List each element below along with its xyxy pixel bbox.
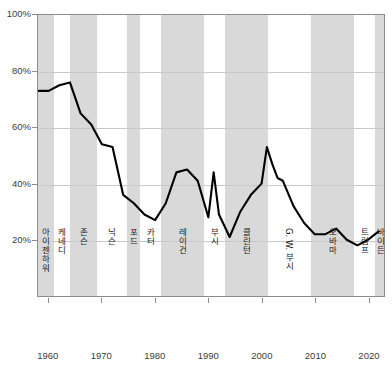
president-label: 부시 <box>209 228 218 246</box>
y-tick-label: 60% <box>0 121 31 132</box>
x-tick-label: 2010 <box>305 350 326 361</box>
y-tick-label: 20% <box>0 234 31 245</box>
x-tick-mark <box>155 298 156 303</box>
president-label: 존슨 <box>78 228 87 246</box>
president-label: G. W. 부시 <box>284 228 293 271</box>
y-tick-mark <box>32 71 37 72</box>
y-tick-label: 80% <box>0 65 31 76</box>
president-label: 케네디 <box>56 228 65 255</box>
y-tick-mark <box>32 127 37 128</box>
x-tick-mark <box>369 298 370 303</box>
president-label: 오바마 <box>327 228 336 255</box>
x-tick-label: 2000 <box>251 350 272 361</box>
president-label: 트럼프 <box>359 228 368 255</box>
y-tick-mark <box>32 184 37 185</box>
y-tick-label: 40% <box>0 178 31 189</box>
president-label: 닉슨 <box>107 228 116 246</box>
y-tick-mark <box>32 240 37 241</box>
x-tick-label: 2020 <box>358 350 379 361</box>
president-label: 클린턴 <box>241 228 250 255</box>
x-tick-mark <box>101 298 102 303</box>
x-tick-label: 1990 <box>198 350 219 361</box>
president-label: 바이든 <box>375 228 384 255</box>
y-tick-mark <box>32 14 37 15</box>
president-label: 레이건 <box>177 228 186 255</box>
trust-in-government-line-chart: 20%40%60%80%100% 19601970198019902000201… <box>0 0 392 372</box>
x-tick-mark <box>315 298 316 303</box>
president-label: 아이젠하워 <box>41 228 50 273</box>
x-tick-label: 1970 <box>91 350 112 361</box>
y-axis: 20%40%60%80%100% <box>0 0 392 372</box>
y-tick-label: 100% <box>0 8 31 19</box>
x-tick-label: 1980 <box>144 350 165 361</box>
x-tick-label: 1960 <box>37 350 58 361</box>
x-tick-mark <box>262 298 263 303</box>
president-label: 카터 <box>145 228 154 246</box>
x-tick-mark <box>48 298 49 303</box>
president-label: 포드 <box>128 228 137 246</box>
x-tick-mark <box>208 298 209 303</box>
